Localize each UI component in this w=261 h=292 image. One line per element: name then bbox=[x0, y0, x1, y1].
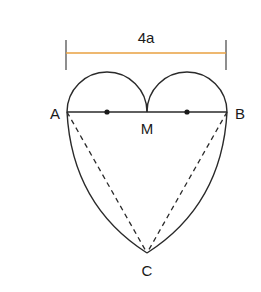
dashed-chord-bc bbox=[147, 112, 227, 253]
point-label-m: M bbox=[141, 120, 154, 137]
center-dot-right bbox=[184, 109, 189, 114]
point-label-a: A bbox=[50, 105, 60, 122]
dashed-chord-ac bbox=[67, 112, 147, 253]
center-dot-left bbox=[104, 109, 109, 114]
left-semicircle bbox=[67, 72, 147, 112]
point-label-c: C bbox=[142, 262, 153, 279]
right-semicircle bbox=[147, 72, 227, 112]
dimension-label: 4a bbox=[138, 29, 155, 46]
point-label-b: B bbox=[235, 105, 245, 122]
heart-diagram: 4a A B M C bbox=[0, 0, 261, 292]
